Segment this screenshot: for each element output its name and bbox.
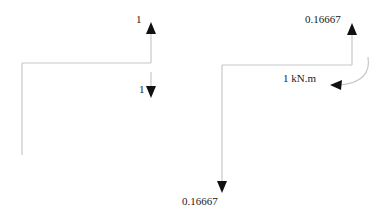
down-arrow-icon [146,72,156,98]
up-arrow-icon [347,23,357,65]
free-body-diagram [0,0,387,217]
left-frame [22,22,156,155]
right-top-reaction-label: 0.16667 [305,14,341,25]
right-frame [217,23,368,193]
up-arrow-icon [146,22,156,63]
left-top-reaction-label: 1 [136,14,142,25]
moment-arrow-icon [330,57,368,90]
down-arrow-icon [217,181,227,193]
right-bottom-reaction-label: 0.16667 [182,196,218,207]
moment-label: 1 kN.m [283,73,316,84]
left-bottom-reaction-label: 1 [139,84,145,95]
